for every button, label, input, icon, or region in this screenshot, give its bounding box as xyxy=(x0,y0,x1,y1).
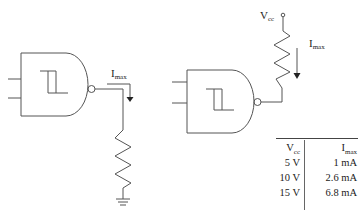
table-header-row: Vcc Imax xyxy=(276,138,358,155)
right-output-wire xyxy=(261,88,282,102)
table-tail xyxy=(276,200,358,210)
left-output-wire xyxy=(95,84,130,130)
table-row: 10 V 2.6 mA xyxy=(276,170,358,185)
table-row: 5 V 1 mA xyxy=(276,155,358,170)
right-imax-label: Imax xyxy=(309,38,325,53)
left-nand-gate xyxy=(8,53,95,116)
cell-imax: 2.6 mA xyxy=(305,170,358,185)
right-pullup-resistor xyxy=(274,17,290,88)
vcc-terminal-icon xyxy=(281,13,285,17)
left-imax-label: Imax xyxy=(111,68,127,83)
right-current-arrow-icon xyxy=(294,73,301,79)
cell-vcc: 10 V xyxy=(276,170,305,185)
table-divider-tail xyxy=(276,200,305,210)
header-imax: Imax xyxy=(305,140,358,155)
table-row: 15 V 6.8 mA xyxy=(276,185,358,200)
header-vcc: Vcc xyxy=(276,140,305,155)
cell-vcc: 5 V xyxy=(276,155,305,170)
right-nand-gate xyxy=(172,70,261,133)
cell-vcc: 15 V xyxy=(276,185,305,200)
cell-imax: 1 mA xyxy=(305,155,358,170)
cell-imax: 6.8 mA xyxy=(305,185,358,200)
left-current-arrow-icon xyxy=(127,97,134,102)
vcc-imax-table: Vcc Imax 5 V 1 mA 10 V 2.6 mA 15 V 6.8 m… xyxy=(276,138,358,210)
vcc-label: Vcc xyxy=(260,10,274,25)
ground-icon xyxy=(116,199,130,205)
left-resistor xyxy=(115,130,131,199)
